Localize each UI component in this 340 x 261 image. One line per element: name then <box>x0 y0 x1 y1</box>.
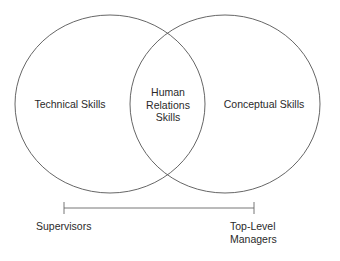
top-level-line-1: Top-Level <box>230 220 277 233</box>
human-relations-label: Human Relations Skills <box>146 86 190 124</box>
conceptual-skills-label: Conceptual Skills <box>224 98 305 111</box>
human-relations-line-1: Human <box>146 86 190 99</box>
supervisors-label: Supervisors <box>36 220 91 233</box>
human-relations-line-3: Skills <box>146 111 190 124</box>
top-level-line-2: Managers <box>230 233 277 246</box>
human-relations-line-2: Relations <box>146 99 190 112</box>
technical-skills-label: Technical Skills <box>34 98 105 111</box>
top-level-managers-label: Top-Level Managers <box>230 220 277 245</box>
